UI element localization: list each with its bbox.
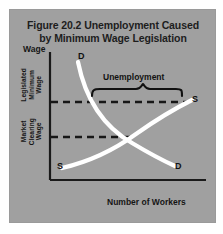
plot-area <box>10 10 215 222</box>
demand-curve-label-bottom: D <box>175 161 182 171</box>
supply-curve-label-top: S <box>192 94 198 104</box>
demand-curve-label-top: D <box>78 51 85 61</box>
figure-container: Figure 20.2 Unemployment Caused by Minim… <box>0 0 223 234</box>
x-axis-title: Number of Workers <box>107 197 186 207</box>
unemployment-annotation-label: Unemployment <box>103 72 164 82</box>
supply-curve-label-bottom: S <box>57 161 63 171</box>
supply-curve <box>62 100 192 168</box>
unemployment-brace <box>92 84 182 96</box>
figure-panel: Figure 20.2 Unemployment Caused by Minim… <box>10 10 215 222</box>
